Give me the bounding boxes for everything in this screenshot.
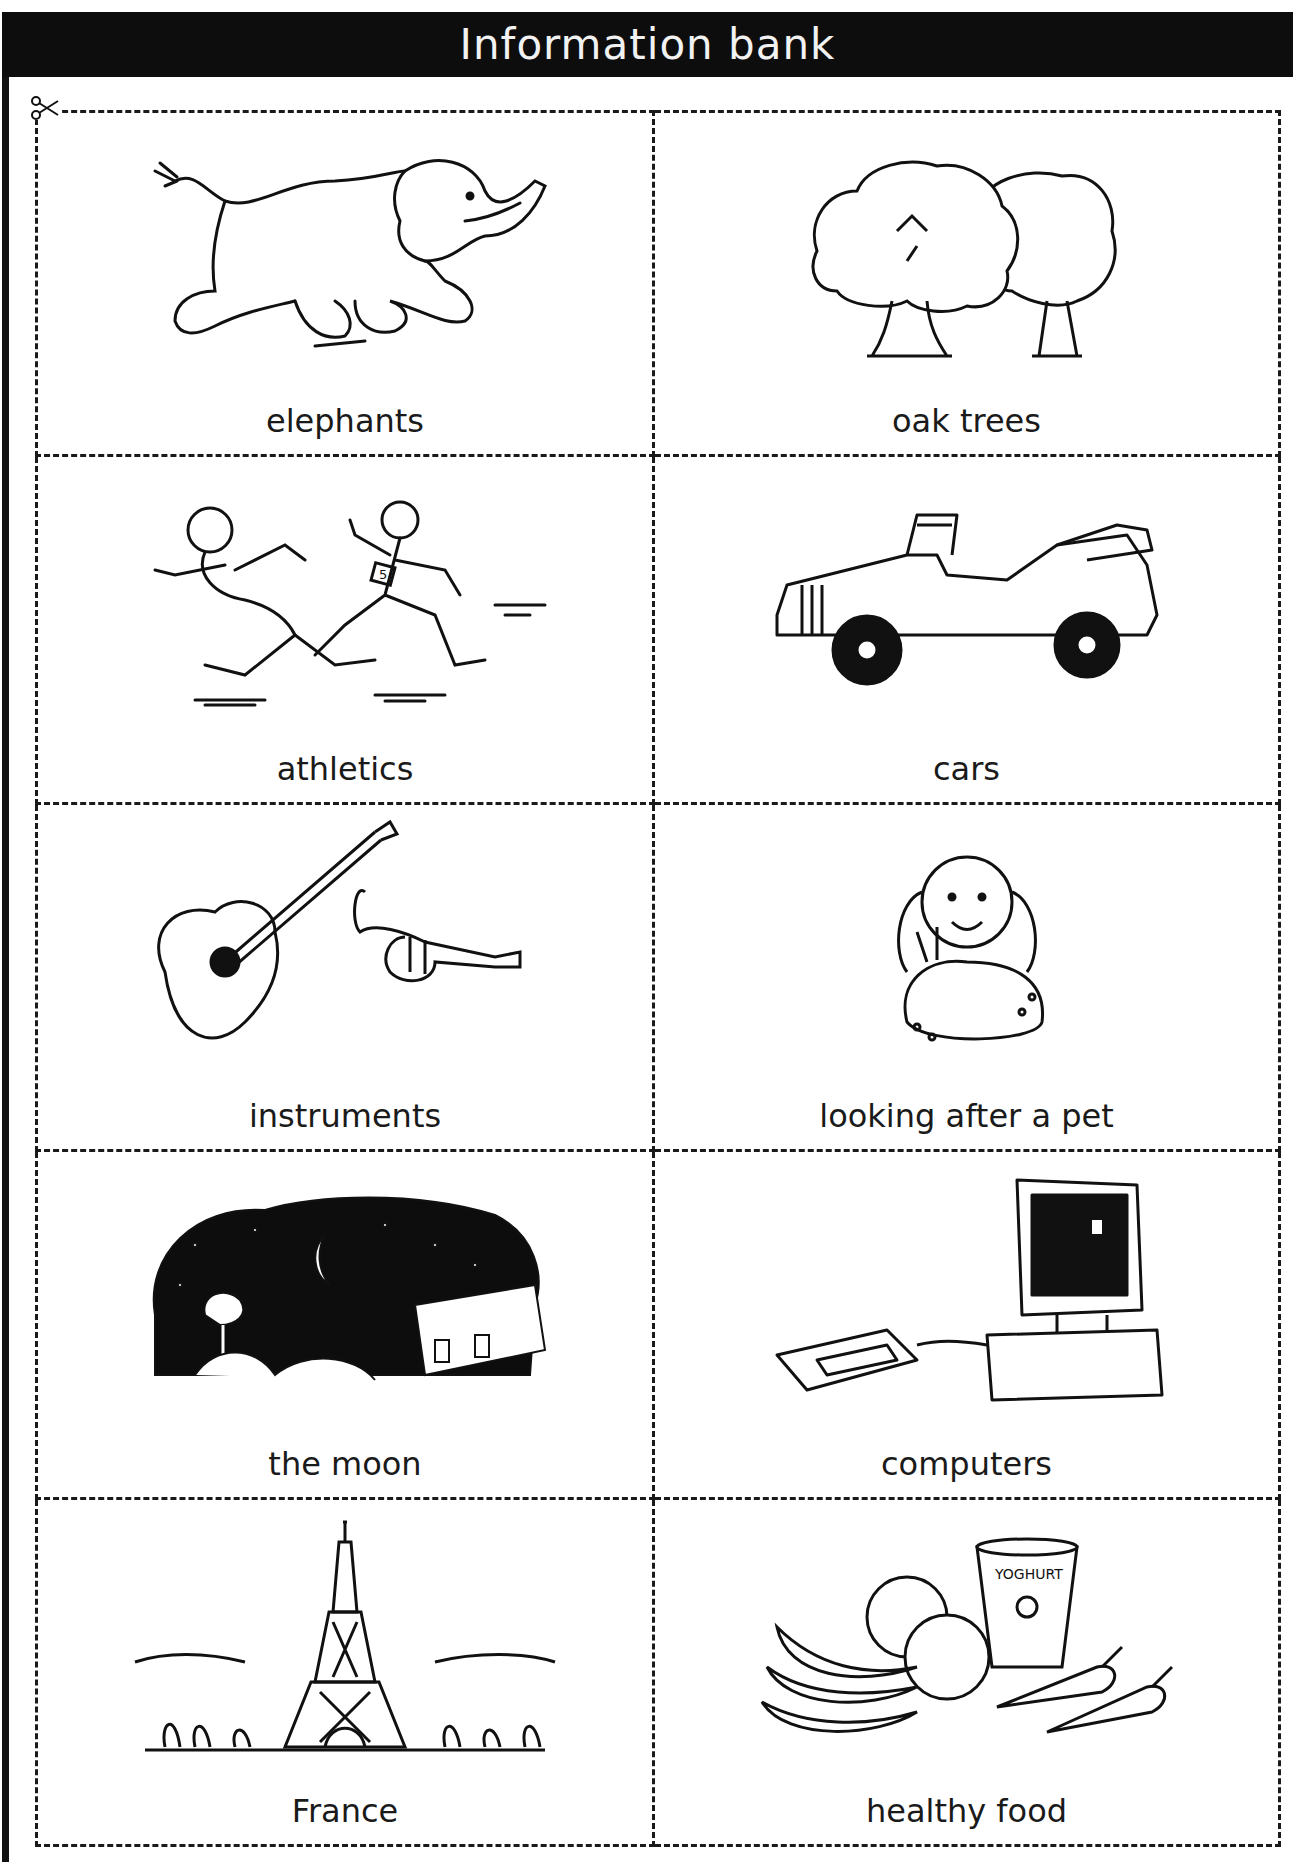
page-title: Information bank [460, 20, 836, 69]
computer-icon [655, 1162, 1278, 1417]
card-label: the moon [38, 1445, 652, 1483]
card-label: instruments [38, 1097, 652, 1135]
svg-text:5: 5 [379, 567, 387, 582]
card-oak-trees: oak trees [655, 110, 1281, 457]
card-healthy-food: YOGHURT healthy food [655, 1500, 1281, 1847]
card-label: athletics [38, 750, 652, 788]
card-grid: elephants oak trees [35, 110, 1281, 1847]
title-bar: Information bank [2, 12, 1293, 77]
card-label: looking after a pet [655, 1097, 1278, 1135]
card-instruments: instruments [35, 805, 655, 1152]
card-cars: cars [655, 457, 1281, 804]
vintage-car-icon [655, 467, 1278, 722]
card-label: oak trees [655, 402, 1278, 440]
runners-icon: 5 [38, 467, 652, 722]
card-computers: computers [655, 1152, 1281, 1499]
elephant-icon [38, 123, 652, 378]
night-sky-moon-icon [38, 1162, 652, 1417]
fruit-yoghurt-carrots-icon: YOGHURT [655, 1510, 1278, 1765]
svg-text:YOGHURT: YOGHURT [994, 1566, 1063, 1582]
card-label: France [38, 1792, 652, 1830]
card-label: healthy food [655, 1792, 1278, 1830]
card-athletics: 5 athletics [35, 457, 655, 804]
card-the-moon: the moon [35, 1152, 655, 1499]
card-elephants: elephants [35, 110, 655, 457]
card-looking-after-a-pet: looking after a pet [655, 805, 1281, 1152]
oak-trees-icon [655, 123, 1278, 378]
girl-with-rabbit-icon [655, 815, 1278, 1070]
card-label: cars [655, 750, 1278, 788]
scissors-icon [30, 96, 60, 120]
card-france: France [35, 1500, 655, 1847]
card-label: computers [655, 1445, 1278, 1483]
page-frame-left [2, 12, 9, 1862]
card-label: elephants [38, 402, 652, 440]
guitar-trumpet-icon [38, 815, 652, 1070]
eiffel-tower-icon [38, 1510, 652, 1765]
